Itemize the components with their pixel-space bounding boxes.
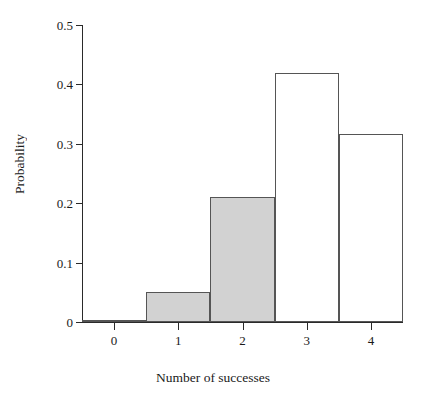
y-tick-label: 0.1 [57,256,73,269]
y-tick-label: 0.2 [57,197,73,210]
histogram-figure: 00.10.20.30.40.5 01234 Probability Numbe… [0,0,426,401]
x-axis-title: Number of successes [0,370,426,386]
y-tick-label: 0.3 [57,137,73,150]
y-tick-mark [76,84,82,85]
y-tick-label: 0 [67,316,74,329]
x-tick-mark [371,323,372,330]
y-tick-mark [76,144,82,145]
x-tick-label: 3 [303,334,310,347]
y-tick-mark [76,322,82,323]
bar-2 [210,197,274,322]
y-tick-mark [76,203,82,204]
x-tick-mark [243,323,244,330]
y-tick-label: 0.5 [57,19,73,32]
y-axis-title: Probability [12,134,32,194]
x-tick-label: 1 [175,334,182,347]
bar-3 [275,73,339,322]
y-tick-mark [76,25,82,26]
bar-0 [82,320,146,322]
x-tick-mark [114,323,115,330]
y-axis-line [82,25,83,323]
x-tick-label: 2 [239,334,246,347]
plot-area: 00.10.20.30.40.5 01234 [82,25,403,322]
y-tick-label: 0.4 [57,78,73,91]
bar-1 [146,292,210,322]
y-tick-mark [76,263,82,264]
bar-4 [339,134,403,322]
x-tick-label: 0 [111,334,118,347]
x-tick-mark [178,323,179,330]
x-tick-mark [307,323,308,330]
x-tick-label: 4 [368,334,375,347]
